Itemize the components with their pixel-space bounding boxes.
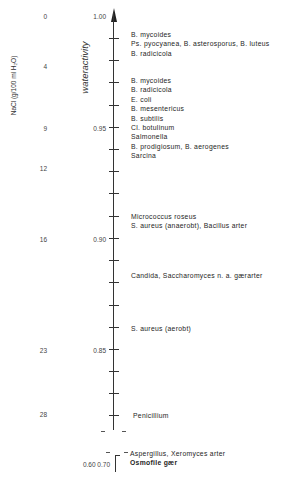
tick-mark <box>109 216 119 217</box>
organism-label: Candida, Saccharomyces n. a. gærarter <box>131 271 263 280</box>
tick-mark <box>109 305 119 306</box>
tick-mark <box>109 327 119 328</box>
break-dash <box>124 452 128 453</box>
organism-group-7: Aspergillus, Xeromyces arter Osmofile gæ… <box>130 449 225 468</box>
aw-value: 0.85 <box>86 347 106 354</box>
nacl-axis-title: NaCl (g/100 ml H₂O) <box>10 41 17 131</box>
tick-mark <box>109 171 119 172</box>
organism-group-5: S. aureus (aerobt) <box>131 324 191 333</box>
nacl-value: 0 <box>37 13 47 20</box>
organism-label: B. radicicola <box>131 49 270 58</box>
organism-label: B. mesentericus <box>131 104 229 113</box>
tick-mark <box>109 149 119 150</box>
tick-mark <box>109 371 119 372</box>
organism-label: E. coli <box>131 95 229 104</box>
aw-value: 1.00 <box>86 13 106 20</box>
organism-label: Osmofile gær <box>130 458 225 467</box>
tick-mark <box>109 282 119 283</box>
bracket-mark <box>115 455 120 472</box>
tick-mark <box>109 349 119 350</box>
tick-mark <box>109 415 119 416</box>
tick-mark <box>109 127 119 128</box>
tick-mark <box>109 38 119 39</box>
organism-label: Salmonella <box>131 132 229 141</box>
organism-label: Aspergillus, Xeromyces arter <box>130 449 225 458</box>
tick-mark <box>109 193 119 194</box>
organism-label: Ps. pyocyanea, B. asterosporus, B. luteu… <box>131 39 270 48</box>
nacl-value: 4 <box>37 63 47 70</box>
nacl-value: 23 <box>35 347 47 354</box>
organism-label: Sarcina <box>131 151 229 160</box>
aw-value: 0.90 <box>86 236 106 243</box>
organism-group-1: B. mycoides Ps. pyocyanea, B. asterospor… <box>131 30 270 58</box>
nacl-value: 28 <box>35 411 47 418</box>
organism-label: B. mycoides <box>131 76 229 85</box>
organism-group-6: Penicillium <box>133 411 169 420</box>
organism-label: S. aureus (aerobt) <box>131 324 191 333</box>
break-dash <box>101 431 105 432</box>
organism-label: Micrococcus roseus <box>131 212 247 221</box>
organism-label: S. aureus (anaerobt), Bacillus arter <box>131 221 247 230</box>
organism-label: B. radicicola <box>131 85 229 94</box>
nacl-value: 9 <box>37 125 47 132</box>
organism-label: Cl. botulinum <box>131 123 229 132</box>
tick-mark <box>109 82 119 83</box>
nacl-value: 12 <box>35 165 47 172</box>
tick-mark <box>109 105 119 106</box>
aw-bottom-values: 0.60 0.70 <box>72 461 110 468</box>
organism-label: Penicillium <box>133 411 169 420</box>
water-activity-axis <box>113 12 114 430</box>
tick-mark <box>109 393 119 394</box>
break-dash <box>106 452 110 453</box>
organism-group-3: Micrococcus roseus S. aureus (anaerobt),… <box>131 212 247 231</box>
water-activity-title: wateractivity <box>79 28 90 108</box>
tick-mark <box>109 238 119 239</box>
organism-group-2: B. mycoides B. radicicola E. coli B. mes… <box>131 76 229 161</box>
nacl-value: 16 <box>35 236 47 243</box>
organism-label: B. subtilis <box>131 114 229 123</box>
organism-label: B. prodigiosum, B. aerogenes <box>131 142 229 151</box>
break-dash <box>122 431 126 432</box>
organism-label: B. mycoides <box>131 30 270 39</box>
aw-value: 0.95 <box>86 125 106 132</box>
tick-mark <box>109 260 119 261</box>
organism-group-4: Candida, Saccharomyces n. a. gærarter <box>131 271 263 280</box>
tick-mark <box>109 60 119 61</box>
